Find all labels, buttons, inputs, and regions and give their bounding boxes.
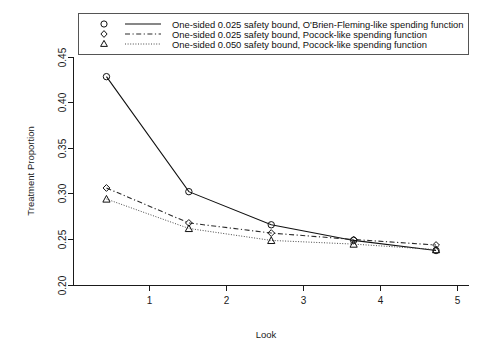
y-tick-label: 0.40 <box>57 92 68 112</box>
chart-canvas: 0.20 0.25 0.30 0.35 0.40 0.45 Treatment … <box>0 0 483 358</box>
chart-legend: One-sided 0.025 safety bound, O'Brien-Fl… <box>79 14 469 55</box>
y-tick-label: 0.20 <box>57 275 68 295</box>
x-axis-tick-labels: 1 2 3 4 5 <box>147 295 461 306</box>
data-series-layer <box>103 73 440 253</box>
x-tick-label: 5 <box>455 295 461 306</box>
y-axis-ticks <box>68 58 74 286</box>
y-tick-label: 0.45 <box>57 47 68 67</box>
x-tick-label: 4 <box>378 295 384 306</box>
x-axis-title: Look <box>256 329 277 340</box>
data-point-marker <box>185 225 192 232</box>
data-point-marker <box>103 185 110 192</box>
y-tick-label: 0.30 <box>57 183 68 203</box>
y-axis-title: Treatment Proportion <box>25 126 36 215</box>
chart-figure: 0.20 0.25 0.30 0.35 0.40 0.45 Treatment … <box>0 0 483 358</box>
legend-label-series-3: One-sided 0.050 safety bound, Pocock-lik… <box>172 39 427 50</box>
y-tick-label: 0.25 <box>57 229 68 249</box>
x-tick-label: 3 <box>301 295 307 306</box>
x-tick-label: 2 <box>224 295 230 306</box>
series-line-1 <box>106 77 436 251</box>
data-point-marker <box>268 237 275 244</box>
y-tick-label: 0.35 <box>57 138 68 158</box>
data-point-marker <box>103 195 110 202</box>
x-tick-label: 1 <box>147 295 153 306</box>
x-axis-ticks <box>150 286 458 292</box>
y-axis-tick-labels: 0.20 0.25 0.30 0.35 0.40 0.45 <box>57 47 68 295</box>
